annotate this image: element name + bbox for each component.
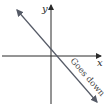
y-axis-label: y [41,3,48,14]
x-axis-label: x [97,57,103,68]
coordinate-plane-diagram: y x Goes down [0,0,108,108]
